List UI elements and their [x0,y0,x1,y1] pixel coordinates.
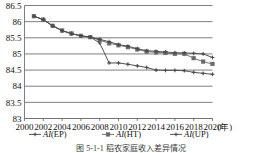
legend-label: AI(HT) [115,129,141,139]
data-point-marker [106,133,110,137]
chart-figure: 8383.58484.58585.58686.52000200220042006… [0,0,262,153]
x-axis-tick-label: 2008 [91,122,110,132]
data-point-marker [201,60,205,64]
chart-plot-area: 8383.58484.58585.58686.52000200220042006… [0,0,262,145]
x-axis-tick-label: 2006 [72,122,91,132]
data-point-marker [192,56,196,60]
line-chart-svg: 8383.58484.58585.58686.52000200220042006… [0,0,262,145]
series-group [32,14,214,59]
y-axis-tick-label: 86.5 [6,1,22,11]
figure-caption: 图 5-1-1 稻农家庭收入差异情况 [0,142,262,153]
data-point-marker [211,62,215,66]
y-axis-tick-label: 86 [13,17,23,27]
y-axis-tick-label: 84.5 [6,65,22,75]
legend-label: AI(EP) [42,129,67,139]
series-line [34,16,213,57]
y-axis-tick-label: 85 [13,49,23,59]
y-axis-tick-label: 85.5 [6,33,22,43]
x-axis-unit-label: (年) [218,122,233,132]
legend-label: AI(UP) [183,129,209,139]
x-axis-tick-label: 2014 [147,122,166,132]
y-axis-tick-label: 83.5 [6,98,22,108]
series-line [34,16,213,64]
x-axis-tick-label: 2016 [166,122,185,132]
x-axis-tick-label: 2000 [16,122,35,132]
y-axis-tick-label: 84 [13,81,23,91]
